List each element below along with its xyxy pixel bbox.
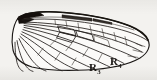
vein-label-r3-subscript: 3 (97, 68, 101, 75)
vein-label-r3-letter: R (89, 61, 97, 73)
wing-figure: R3 R4 (0, 0, 157, 80)
vein-label-r3: R3 (89, 62, 101, 76)
wing-illustration-svg (0, 0, 157, 80)
vein-label-r4: R4 (110, 56, 122, 70)
vein-label-r4-subscript: 4 (118, 62, 122, 69)
vein-label-r4-letter: R (110, 55, 118, 67)
